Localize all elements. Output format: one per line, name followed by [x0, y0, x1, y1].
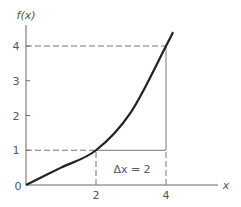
y-ticks: 1234 [13, 40, 31, 157]
x-axis-label: x [222, 179, 230, 192]
delta-x-label: Δx = 2 [113, 163, 150, 176]
y-tick-label: 4 [13, 40, 20, 53]
function-curve [26, 32, 173, 185]
x-tick-label: 4 [163, 189, 170, 202]
y-tick-label: 1 [13, 144, 20, 157]
origin-label: 0 [15, 180, 22, 193]
function-chart: 1234 24 f(x) x 0 Δx = 2 [0, 0, 241, 207]
y-tick-label: 3 [13, 75, 20, 88]
y-tick-label: 2 [13, 110, 20, 123]
x-tick-label: 2 [93, 189, 100, 202]
y-axis-label: f(x) [17, 9, 36, 22]
x-ticks: 24 [93, 189, 170, 202]
